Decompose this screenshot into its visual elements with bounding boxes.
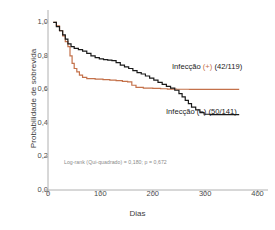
x-axis-title: Dias <box>0 209 275 218</box>
curve-label-infection-negative: Infecção (−) (50/141) <box>166 107 237 116</box>
logrank-annotation: Log-rank (Qui-quadrado) = 0,180; p = 0,6… <box>64 159 167 165</box>
curve-label-negative-main: Infecção <box>166 107 195 116</box>
curve-label-infection-positive: Infecção (+) (42/119) <box>172 62 242 71</box>
x-tick-label: 300 <box>185 190 225 198</box>
curve-label-positive-main: Infecção <box>172 62 201 71</box>
curve-label-negative-sign: (−) <box>197 107 207 116</box>
x-tick-label: 400 <box>238 190 275 198</box>
curve-label-positive-sign: (+) <box>203 62 213 71</box>
x-axis-tick-labels: 0100200300400 <box>0 190 275 204</box>
x-tick-label: 0 <box>28 190 68 198</box>
curve-label-positive-counts: (42/119) <box>214 62 242 71</box>
x-tick-label: 100 <box>80 190 120 198</box>
survival-curve-figure: Probabilidade de sobrevida 0,00,20,40,60… <box>0 0 275 230</box>
x-tick-label: 200 <box>133 190 173 198</box>
curve-label-negative-counts: (50/141) <box>208 107 236 116</box>
